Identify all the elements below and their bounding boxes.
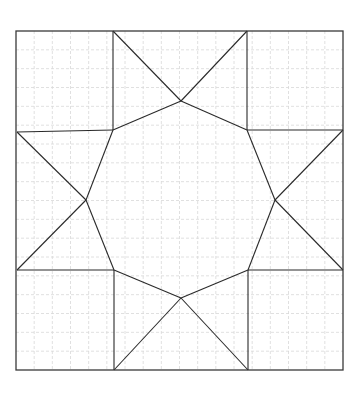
background	[0, 0, 363, 393]
quilt-star-diagram	[0, 0, 363, 393]
